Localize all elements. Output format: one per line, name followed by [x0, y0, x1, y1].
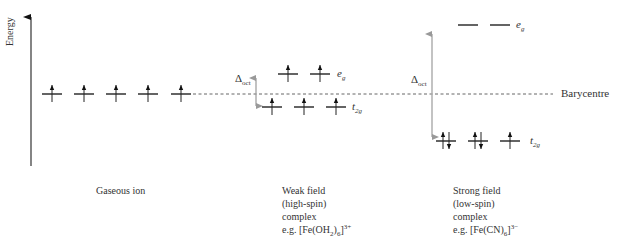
formula-part: e.g. [Fe(OH — [282, 224, 330, 235]
delta-subscript: oct — [242, 79, 251, 87]
formula-charge: 3+ — [344, 223, 351, 231]
eg-subscript: g — [342, 74, 346, 82]
strong-t2g-orbital — [500, 132, 520, 149]
gaseous-ion-orbital — [106, 85, 126, 102]
gaseous-ion-orbital — [138, 85, 158, 102]
barycentre-label: Barycentre — [561, 87, 609, 100]
weak-eg-label: eg — [337, 67, 345, 80]
eg-subscript: g — [521, 25, 525, 33]
strong-eg-label: eg — [516, 18, 524, 31]
strong-delta-oct-label: Δoct — [411, 73, 427, 86]
weak-t2g-label: t2g — [352, 100, 362, 113]
caption-line: Weak field — [282, 184, 351, 197]
formula-part: e.g. [Fe(CN) — [453, 224, 504, 235]
energy-axis-label: Energy — [4, 17, 15, 46]
strong-field-caption: Strong field (low-spin) complex e.g. [Fe… — [453, 184, 518, 236]
weak-t2g-orbital — [326, 98, 346, 115]
gaseous-ion-orbital — [171, 85, 191, 102]
weak-t2g-orbital — [294, 98, 314, 115]
t2g-subscript: 2g — [533, 141, 540, 149]
caption-line: (high-spin) — [282, 197, 351, 210]
weak-eg-orbital — [278, 65, 298, 82]
formula-charge: 3− — [511, 223, 518, 231]
caption-line: (low-spin) — [453, 197, 518, 210]
caption-line: complex — [453, 210, 518, 223]
strong-field-example: e.g. [Fe(CN)6]3− — [453, 223, 518, 236]
caption-line: Strong field — [453, 184, 518, 197]
weak-delta-oct-label: Δoct — [235, 72, 251, 85]
weak-field-caption: Weak field (high-spin) complex e.g. [Fe(… — [282, 184, 351, 236]
weak-eg-orbital — [310, 65, 330, 82]
strong-t2g-orbital — [468, 132, 488, 149]
gaseous-ion-orbital — [42, 85, 62, 102]
weak-t2g-orbital — [262, 98, 282, 115]
t2g-subscript: 2g — [355, 107, 362, 115]
weak-field-example: e.g. [Fe(OH2)6]3+ — [282, 223, 351, 236]
strong-t2g-label: t2g — [530, 134, 540, 147]
gaseous-ion-caption: Gaseous ion — [96, 184, 145, 197]
gaseous-ion-orbital — [74, 85, 94, 102]
delta-subscript: oct — [418, 80, 427, 88]
caption-line: complex — [282, 210, 351, 223]
strong-t2g-orbital — [436, 132, 456, 149]
